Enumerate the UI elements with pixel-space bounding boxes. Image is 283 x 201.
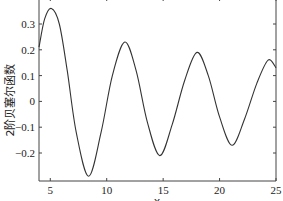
bessel-curve <box>39 8 276 176</box>
y-axis-label: 2阶贝塞尔函数 <box>3 64 17 137</box>
line-chart: 510152025 −0.2−0.100.10.20.3 2阶贝塞尔函数 x <box>0 0 282 201</box>
y-tick-label: 0 <box>30 95 36 107</box>
x-tick-label: 5 <box>48 184 54 196</box>
x-tick-label: 20 <box>214 184 226 196</box>
y-tick-label: 0.1 <box>21 70 35 82</box>
x-axis-label: x <box>154 195 161 201</box>
y-tick-label: 0.3 <box>21 18 35 30</box>
y-tick-label: 0.2 <box>21 44 35 56</box>
y-tick-label: −0.1 <box>15 121 35 133</box>
y-tick-label: −0.2 <box>15 147 35 159</box>
x-axis-ticks: 510152025 <box>48 0 282 196</box>
x-tick-label: 10 <box>101 184 113 196</box>
y-axis-ticks: −0.2−0.100.10.20.3 <box>15 18 276 159</box>
x-tick-label: 25 <box>271 184 283 196</box>
